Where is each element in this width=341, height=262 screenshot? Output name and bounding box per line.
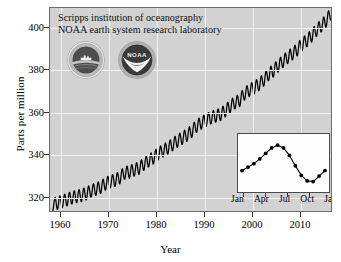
seasonal-cycle-point xyxy=(305,179,309,183)
inset-tick-jan-2: Jan xyxy=(324,194,332,204)
x-tickmark-1980 xyxy=(156,212,157,217)
x-tick-1960: 1960 xyxy=(40,219,80,230)
noaa-logo: NOAA xyxy=(118,41,156,79)
x-tickmark-2010 xyxy=(300,212,301,217)
attribution-line-2: NOAA earth system research laboratory xyxy=(58,24,222,36)
gridline-y-360 xyxy=(50,113,331,114)
x-tick-1980: 1980 xyxy=(136,219,176,230)
x-tick-2000: 2000 xyxy=(232,219,272,230)
source-attribution: Scripps institution of oceanography NOAA… xyxy=(58,12,222,35)
x-axis-label: Year xyxy=(0,243,341,255)
x-tickmark-1990 xyxy=(204,212,205,217)
y-tick-340: 340 xyxy=(10,150,44,161)
gridline-x-1970 xyxy=(109,8,110,211)
y-tick-labels: 400 380 360 340 320 xyxy=(6,0,44,262)
inset-x-tick-labels: Jan Apr Jul Oct Jan xyxy=(231,194,332,204)
seasonal-cycle-point xyxy=(240,169,244,173)
seasonal-cycle-point xyxy=(288,154,292,158)
seasonal-cycle-point xyxy=(282,146,286,150)
seasonal-cycle-point xyxy=(270,146,274,150)
seasonal-cycle-point xyxy=(258,157,262,161)
x-tickmark-1970 xyxy=(108,212,109,217)
inset-tick-jul: Jul xyxy=(279,194,290,204)
x-tickmark-2000 xyxy=(252,212,253,217)
x-tick-1970: 1970 xyxy=(88,219,128,230)
seasonal-cycle-point xyxy=(293,164,297,168)
x-tick-2010: 2010 xyxy=(280,219,320,230)
attribution-line-1: Scripps institution of oceanography xyxy=(58,12,222,24)
x-tickmark-1960 xyxy=(60,212,61,217)
gridline-x-1960 xyxy=(61,8,62,211)
seasonal-cycle-markers xyxy=(240,143,327,183)
seasonal-cycle-point xyxy=(311,180,315,184)
seasonal-cycle-point xyxy=(323,169,327,173)
seasonal-cycle-point xyxy=(299,173,303,177)
gridline-x-1990 xyxy=(205,8,206,211)
seasonal-cycle-point xyxy=(252,162,256,166)
seasonal-cycle-point xyxy=(246,165,250,169)
main-plot-panel: Scripps institution of oceanography NOAA… xyxy=(49,7,332,212)
y-tick-380: 380 xyxy=(10,65,44,76)
y-tick-320: 320 xyxy=(10,193,44,204)
inset-tick-jan-1: Jan xyxy=(231,194,244,204)
seasonal-cycle-point xyxy=(264,151,268,155)
seasonal-cycle-inset xyxy=(237,133,330,193)
seasonal-cycle-plot xyxy=(238,134,329,192)
seasonal-cycle-point xyxy=(276,143,280,147)
seasonal-cycle-point xyxy=(317,174,321,178)
noaa-logo-text: NOAA xyxy=(127,51,147,58)
gridline-x-1980 xyxy=(157,8,158,211)
x-tick-1990: 1990 xyxy=(184,219,224,230)
inset-tick-oct: Oct xyxy=(300,194,314,204)
y-tick-400: 400 xyxy=(10,23,44,34)
figure-root: Parts per million 400 380 360 340 320 Sc xyxy=(0,0,341,262)
scripps-logo xyxy=(67,41,105,79)
y-tick-360: 360 xyxy=(10,108,44,119)
inset-tick-apr: Apr xyxy=(254,194,269,204)
